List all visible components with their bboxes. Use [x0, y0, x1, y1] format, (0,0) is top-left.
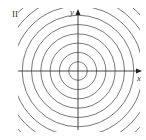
y-axis-arrow-icon: [76, 9, 81, 15]
x-axis-label: x: [136, 73, 141, 83]
level-curves: [0, 0, 146, 140]
axes: [18, 9, 142, 130]
contour-diagram: II y x: [0, 0, 146, 140]
y-axis-label: y: [69, 7, 74, 17]
level-curves-figure: II y x: [0, 0, 146, 140]
panel-label: II: [12, 9, 18, 19]
